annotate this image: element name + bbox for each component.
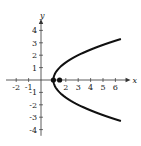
- x-axis-arrow-icon: [126, 78, 131, 82]
- y-tick-label: -1: [29, 88, 37, 97]
- y-tick-label: 3: [32, 39, 37, 48]
- x-tick-label: 5: [100, 83, 105, 92]
- y-axis-label: y: [39, 11, 45, 20]
- parabola-plot: -2-123456-4-3-2-11234 x y: [0, 0, 141, 146]
- y-tick-label: 4: [32, 26, 37, 35]
- focus-point: [57, 77, 62, 82]
- x-tick-label: 6: [113, 83, 118, 92]
- y-tick-label: -4: [29, 126, 37, 135]
- y-tick-label: -3: [29, 113, 37, 122]
- y-tick-label: 1: [32, 64, 37, 73]
- x-tick-label: 4: [88, 83, 93, 92]
- x-tick-label: 2: [63, 83, 68, 92]
- x-tick-label: -2: [12, 83, 20, 92]
- y-tick-label: -2: [29, 101, 37, 110]
- tick-labels: -2-123456-4-3-2-11234: [12, 26, 118, 134]
- x-axis-label: x: [133, 76, 138, 85]
- vertex-point: [51, 77, 56, 82]
- y-tick-label: 2: [32, 51, 37, 60]
- x-tick-label: 3: [76, 83, 81, 92]
